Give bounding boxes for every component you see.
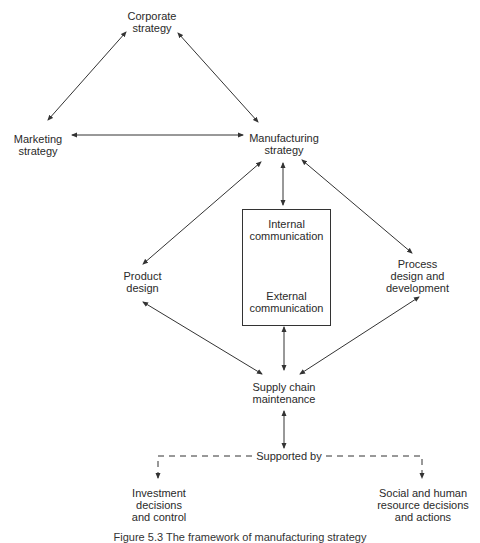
dashed-right — [326, 456, 422, 478]
external-line2: communication — [243, 302, 330, 314]
investment-line2: decisions — [124, 499, 194, 511]
social-hr-line1: Social and human — [376, 487, 470, 499]
arrow-corporate-marketing — [48, 32, 126, 120]
node-social-hr: Social and human resource decisions and … — [376, 487, 470, 523]
corporate-strategy-line1: Corporate — [115, 10, 189, 22]
node-product-design: Product design — [115, 270, 170, 294]
manufacturing-strategy-line2: strategy — [244, 144, 324, 156]
node-process-design: Process design and development — [380, 258, 455, 294]
node-corporate-strategy: Corporate strategy — [115, 10, 189, 34]
process-design-line3: development — [380, 282, 455, 294]
supported-by-label: Supported by — [252, 450, 326, 462]
investment-line3: and control — [124, 511, 194, 523]
dashed-left — [158, 456, 252, 478]
marketing-strategy-line2: strategy — [8, 145, 68, 157]
social-hr-line3: and actions — [376, 511, 470, 523]
manufacturing-strategy-line1: Manufacturing — [244, 132, 324, 144]
marketing-strategy-line1: Marketing — [8, 133, 68, 145]
investment-line1: Investment — [124, 487, 194, 499]
corporate-strategy-line2: strategy — [115, 22, 189, 34]
process-design-line2: design and — [380, 270, 455, 282]
supply-chain-line1: Supply chain — [244, 381, 324, 393]
internal-line1: Internal — [243, 218, 330, 230]
figure-caption: Figure 5.3 The framework of manufacturin… — [0, 531, 480, 543]
node-manufacturing-strategy: Manufacturing strategy — [244, 132, 324, 156]
node-supply-chain: Supply chain maintenance — [244, 381, 324, 405]
product-design-line2: design — [115, 282, 170, 294]
external-communication: External communication — [243, 290, 330, 314]
process-design-line1: Process — [380, 258, 455, 270]
node-marketing-strategy: Marketing strategy — [8, 133, 68, 157]
internal-line2: communication — [243, 230, 330, 242]
node-investment: Investment decisions and control — [124, 487, 194, 523]
social-hr-line2: resource decisions — [376, 499, 470, 511]
internal-communication: Internal communication — [243, 218, 330, 242]
external-line1: External — [243, 290, 330, 302]
arrow-corporate-manufacturing — [178, 33, 258, 122]
communication-box: Internal communication External communic… — [242, 209, 331, 326]
product-design-line1: Product — [115, 270, 170, 282]
supply-chain-line2: maintenance — [244, 393, 324, 405]
